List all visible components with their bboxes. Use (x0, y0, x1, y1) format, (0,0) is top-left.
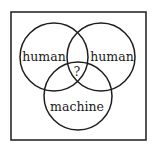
set-label-bottom: machine (50, 99, 104, 114)
venn-diagram: human human machine ? (0, 0, 153, 148)
intersection-label: ? (74, 65, 80, 79)
set-label-left: human (22, 49, 65, 64)
set-label-right: human (90, 49, 133, 64)
